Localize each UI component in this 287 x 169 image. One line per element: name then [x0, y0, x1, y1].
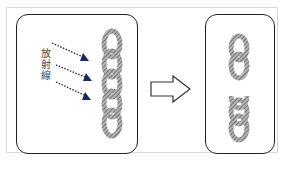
- broken-chain-icon: [231, 36, 247, 140]
- intact-chain-icon: [104, 31, 120, 136]
- radiation-rays-icon: [52, 43, 92, 100]
- diagram-graphics: [0, 0, 287, 169]
- right-arrow-icon: [151, 76, 190, 102]
